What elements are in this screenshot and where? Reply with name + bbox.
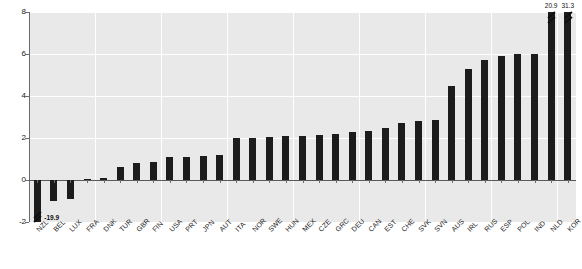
x-tick-fin <box>153 180 154 183</box>
bar-ind <box>531 54 538 180</box>
gridline-y-4 <box>29 96 576 97</box>
x-tick-nzl <box>37 180 38 183</box>
gridline-x-1 <box>95 12 96 222</box>
y-tick-label-6: 6 <box>0 50 26 58</box>
x-tick-ind <box>535 180 536 183</box>
bar-grc <box>332 134 339 180</box>
x-tick-bel <box>54 180 55 183</box>
gridline-x-8 <box>557 12 558 222</box>
x-tick-cze <box>319 180 320 183</box>
x-tick-fra <box>87 180 88 183</box>
y-tick-mark-4 <box>25 96 29 97</box>
x-tick-nor <box>253 180 254 183</box>
gridline-y-8 <box>29 12 576 13</box>
x-tick-mex <box>303 180 304 183</box>
bar-mex <box>299 136 306 180</box>
gridline-x-3 <box>227 12 228 222</box>
y-tick-label-4: 4 <box>0 92 26 100</box>
x-tick-svk <box>419 180 420 183</box>
x-tick-tur <box>120 180 121 183</box>
x-tick-rus <box>485 180 486 183</box>
y-tick-mark-6 <box>25 54 29 55</box>
value-label-nzl: -19.9 <box>44 214 59 221</box>
gridline-x-4 <box>293 12 294 222</box>
bar-che <box>398 123 405 180</box>
y-tick-label-8: 8 <box>0 8 26 16</box>
x-tick-can <box>369 180 370 183</box>
x-tick-usa <box>170 180 171 183</box>
bar-svn <box>432 120 439 180</box>
bar-fin <box>150 162 157 180</box>
bar-cze <box>316 135 323 180</box>
gridline-x-5 <box>359 12 360 222</box>
bar-kor <box>564 12 571 180</box>
y-tick-label-minus2: -2 <box>0 218 26 226</box>
gridline-x-7 <box>491 12 492 222</box>
value-label-kor: 31.3 <box>557 2 579 9</box>
bar-nld <box>548 12 555 180</box>
bar-bel <box>50 180 57 201</box>
bar-tur <box>117 167 124 180</box>
bar-hun <box>282 136 289 180</box>
bar-prt <box>183 157 190 180</box>
bar-rus <box>481 60 488 180</box>
plot-area-background <box>29 12 576 222</box>
x-tick-nld <box>551 180 552 183</box>
x-tick-deu <box>352 180 353 183</box>
bar-esp <box>498 56 505 180</box>
x-tick-prt <box>186 180 187 183</box>
x-tick-ita <box>236 180 237 183</box>
x-tick-est <box>385 180 386 183</box>
bar-can <box>365 131 372 180</box>
bar-gbr <box>133 163 140 180</box>
x-tick-aus <box>452 180 453 183</box>
y-tick-label-0: 0 <box>0 176 26 184</box>
bar-aus <box>448 86 455 181</box>
x-tick-grc <box>336 180 337 183</box>
bar-irl <box>465 69 472 180</box>
x-tick-che <box>402 180 403 183</box>
x-tick-svn <box>435 180 436 183</box>
gridline-x-6 <box>425 12 426 222</box>
x-tick-swe <box>269 180 270 183</box>
gridline-y-6 <box>29 54 576 55</box>
bar-swe <box>266 137 273 180</box>
y-axis-line <box>29 12 30 222</box>
y-tick-mark-minus2 <box>25 222 29 223</box>
x-tick-pol <box>518 180 519 183</box>
bar-pol <box>514 54 521 180</box>
bar-deu <box>349 132 356 180</box>
x-tick-esp <box>501 180 502 183</box>
bar-jpn <box>200 156 207 180</box>
bar-ita <box>233 138 240 180</box>
x-tick-gbr <box>137 180 138 183</box>
x-tick-hun <box>286 180 287 183</box>
bar-svk <box>415 121 422 180</box>
x-tick-aut <box>220 180 221 183</box>
bar-usa <box>166 157 173 180</box>
bar-est <box>382 128 389 181</box>
x-tick-kor <box>568 180 569 183</box>
x-tick-lux <box>70 180 71 183</box>
gridline-x-2 <box>161 12 162 222</box>
y-tick-mark-2 <box>25 138 29 139</box>
y-tick-label-2: 2 <box>0 134 26 142</box>
bar-aut <box>216 155 223 180</box>
bar-nor <box>249 138 256 180</box>
x-tick-dnk <box>104 180 105 183</box>
x-tick-irl <box>468 180 469 183</box>
x-tick-jpn <box>203 180 204 183</box>
y-tick-mark-8 <box>25 12 29 13</box>
y-tick-mark-0 <box>25 180 29 181</box>
